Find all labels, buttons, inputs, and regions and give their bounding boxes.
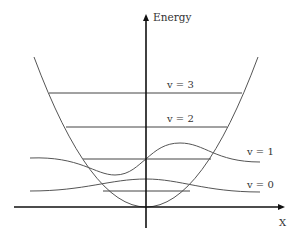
y-axis-arrow-icon xyxy=(143,14,149,21)
energy-diagram: Energy X v = 3 v = 2 v = 1 v = 0 xyxy=(0,0,302,240)
level-v1-label: v = 1 xyxy=(246,146,274,157)
level-v3-label: v = 3 xyxy=(166,79,194,90)
y-axis-label: Energy xyxy=(153,11,191,23)
level-v2-label: v = 2 xyxy=(166,113,194,124)
level-v0-label: v = 0 xyxy=(246,179,274,190)
x-axis-label: X xyxy=(279,217,287,228)
x-axis-arrow-icon xyxy=(278,204,285,210)
wavefunction-v0 xyxy=(30,179,260,192)
